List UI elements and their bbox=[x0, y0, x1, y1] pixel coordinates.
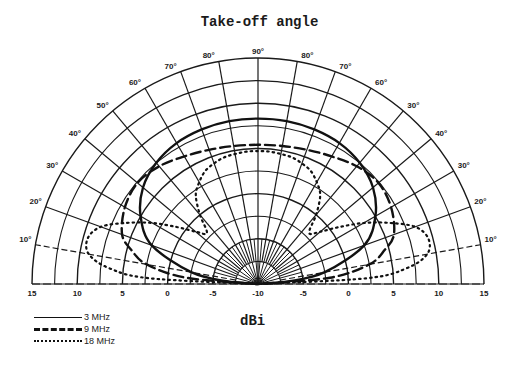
grid-radial bbox=[35, 245, 235, 280]
radial-tick-label: -5 bbox=[209, 289, 217, 298]
radial-tick-label: 0 bbox=[165, 289, 170, 298]
legend: 3 MHz 9 MHz 18 MHz bbox=[34, 311, 115, 347]
dashed-line-icon bbox=[34, 328, 82, 331]
legend-label: 9 MHz bbox=[84, 324, 110, 334]
radial-tick-label: 10 bbox=[434, 289, 443, 298]
angle-tick-label: 40° bbox=[435, 129, 447, 138]
x-axis-label: dBi bbox=[240, 313, 265, 329]
angle-tick-label: 80° bbox=[301, 51, 313, 60]
legend-label: 3 MHz bbox=[84, 312, 110, 322]
angle-tick-label: 10° bbox=[485, 235, 497, 244]
angle-tick-label: 60° bbox=[375, 78, 387, 87]
solid-line-icon bbox=[34, 317, 82, 318]
radial-tick-label: -10 bbox=[252, 289, 264, 298]
legend-item-9mhz: 9 MHz bbox=[34, 323, 115, 335]
grid-radial bbox=[219, 61, 254, 261]
angle-tick-label: 30° bbox=[458, 161, 470, 170]
angle-tick-label: 10° bbox=[19, 235, 31, 244]
radial-tick-label: -5 bbox=[300, 289, 308, 298]
angle-tick-label: 30° bbox=[407, 101, 419, 110]
angle-tick-label: 90° bbox=[252, 47, 264, 56]
dotted-line-icon bbox=[34, 340, 82, 342]
angle-tick-label: 80° bbox=[203, 51, 215, 60]
radial-tick-label: 15 bbox=[480, 289, 489, 298]
angle-tick-label: 20° bbox=[30, 197, 42, 206]
legend-label: 18 MHz bbox=[84, 336, 115, 346]
angle-tick-label: 40° bbox=[69, 129, 81, 138]
angle-tick-label: 60° bbox=[129, 78, 141, 87]
angle-tick-label: 50° bbox=[97, 101, 109, 110]
radial-tick-label: 5 bbox=[120, 289, 125, 298]
legend-item-18mhz: 18 MHz bbox=[34, 335, 115, 347]
legend-item-3mhz: 3 MHz bbox=[34, 311, 115, 323]
polar-grid bbox=[32, 58, 484, 284]
angle-tick-label: 70° bbox=[339, 62, 351, 71]
angle-tick-label: 20° bbox=[474, 197, 486, 206]
radial-tick-label: 10 bbox=[73, 289, 82, 298]
radial-tick-label: 15 bbox=[28, 289, 37, 298]
radial-tick-label: 5 bbox=[391, 289, 396, 298]
radial-tick-label: 0 bbox=[346, 289, 351, 298]
angle-tick-label: 30° bbox=[46, 161, 58, 170]
grid-radial bbox=[280, 245, 480, 280]
angle-tick-label: 70° bbox=[165, 62, 177, 71]
grid-radial bbox=[262, 61, 297, 261]
